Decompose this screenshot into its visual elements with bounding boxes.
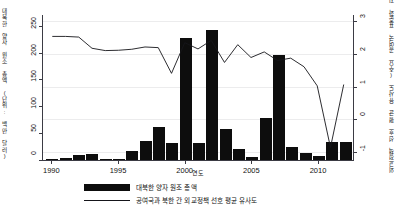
legend-label-line: 공여국과 북한 간 외교정책 선호 평균 유사도 (136, 195, 257, 205)
bar (166, 143, 178, 160)
y-tick-left (39, 79, 43, 80)
y-tick-left (39, 133, 43, 134)
y-tick-right (353, 54, 357, 55)
bar (286, 147, 298, 160)
y-tick-left (39, 106, 43, 107)
bar (233, 149, 245, 160)
bar (326, 142, 338, 160)
plot-area: 050100150200250 -10123 (42, 15, 354, 160)
gridline (43, 87, 353, 88)
x-tick (51, 160, 52, 164)
bar (340, 142, 352, 160)
y-tick-right (353, 152, 357, 153)
y-tick-label-right: 3 (359, 14, 366, 18)
y-tick-label-left: 0 (30, 151, 37, 155)
legend-item-bar: 대북한 양자 원조 총액 (84, 182, 257, 192)
bar (260, 118, 272, 160)
gridline (43, 54, 353, 55)
legend-item-line: 공여국과 북한 간 외교정책 선호 평균 유사도 (84, 195, 257, 205)
legend-label-bar: 대북한 양자 원조 총액 (136, 182, 197, 192)
chart-legend: 대북한 양자 원조 총액 공여국과 북한 간 외교정책 선호 평균 유사도 (84, 182, 257, 205)
bar (206, 30, 218, 161)
y-tick-left (39, 53, 43, 54)
x-axis-title: 연도 (0, 168, 395, 177)
y-axis-left-title: 대북한 양자 원조 총액 (단위: 백만 달러) (1, 8, 7, 168)
y-tick-label-right: -1 (359, 145, 366, 151)
x-tick (251, 160, 252, 164)
chart-figure: 대북한 양자 원조 총액 (단위: 백만 달러) 외교정책 선호 평균 유사도 … (0, 0, 395, 215)
y-tick-label-right: 1 (359, 80, 366, 84)
bar (193, 143, 205, 160)
y-tick-label-left: 200 (30, 44, 37, 56)
x-tick (118, 160, 119, 164)
legend-swatch-bar-icon (84, 184, 130, 191)
line-series (43, 15, 353, 160)
y-tick-right (353, 87, 357, 88)
y-tick-label-right: 0 (359, 112, 366, 116)
bar (180, 38, 192, 160)
y-tick-label-left: 100 (30, 97, 37, 109)
y-tick-label-left: 150 (30, 70, 37, 82)
x-axis-line: 19901995200020052010 (42, 160, 354, 161)
y-tick-label-left: 250 (30, 17, 37, 29)
bar (126, 151, 138, 160)
y-tick-right (353, 119, 357, 120)
bar (153, 127, 165, 160)
y-tick-right (353, 21, 357, 22)
gridline (43, 119, 353, 120)
bar (300, 153, 312, 160)
x-tick (185, 160, 186, 164)
bar (140, 141, 152, 160)
y-tick-left (39, 26, 43, 27)
legend-swatch-line-icon (84, 200, 130, 201)
y-tick-label-right: 2 (359, 47, 366, 51)
bar (220, 129, 232, 160)
x-tick (318, 160, 319, 164)
bar (273, 55, 285, 160)
y-tick-label-left: 50 (30, 124, 37, 132)
y-axis-right-title: 외교정책 선호 평균 유사도 (주요 공여국 표준화 지수) (389, 8, 395, 173)
gridline (43, 21, 353, 22)
